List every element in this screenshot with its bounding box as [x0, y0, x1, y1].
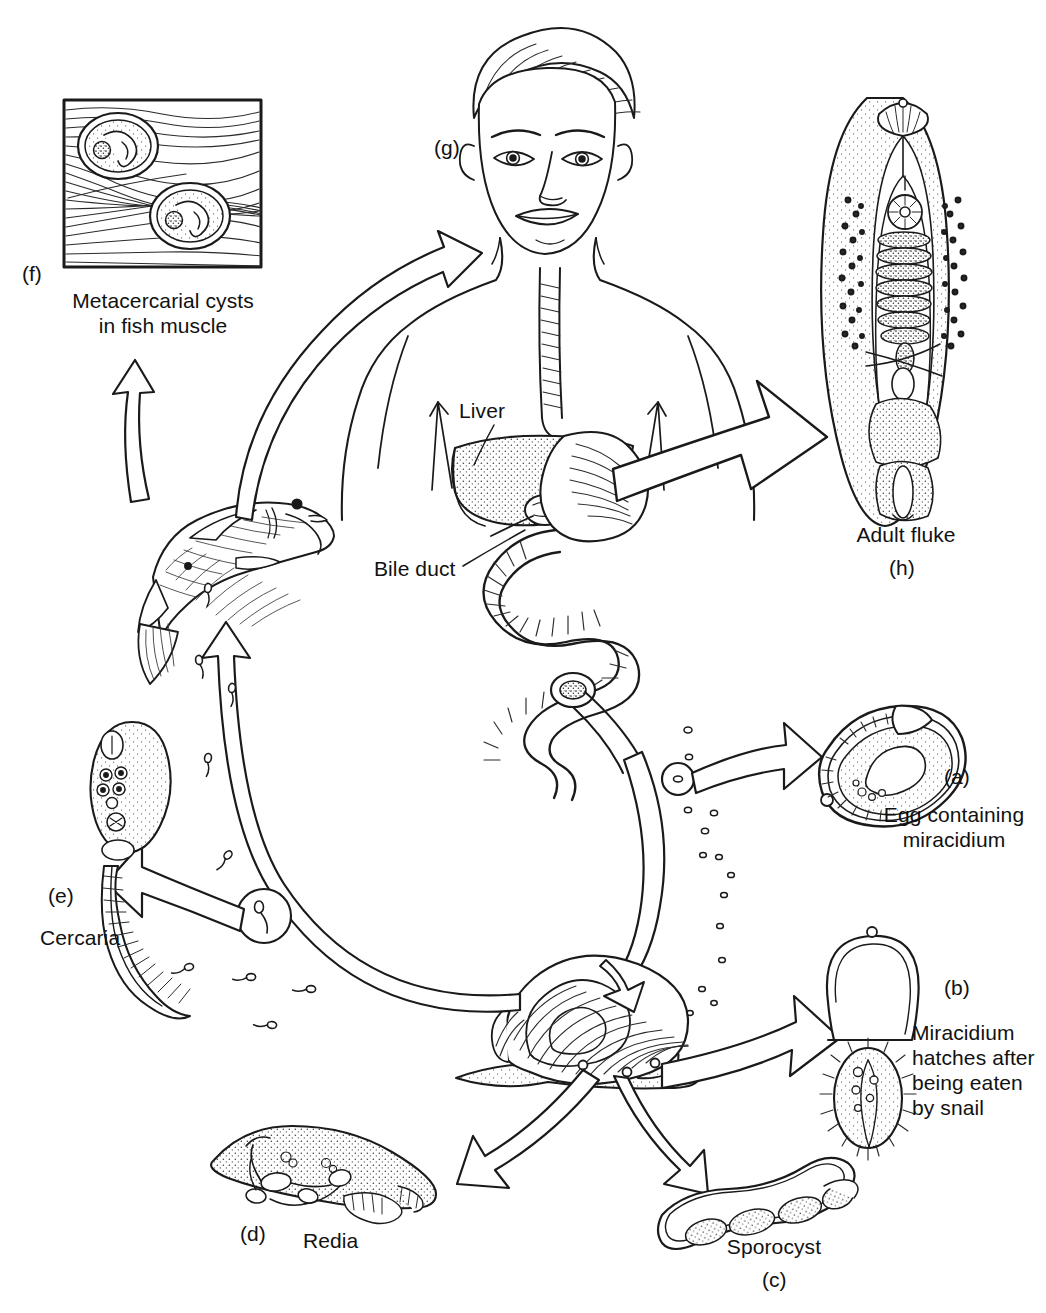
stage-caption-b-line1: Miracidium [912, 1020, 1015, 1045]
stage-caption-h: Adult fluke [813, 522, 999, 547]
arrow-fish-to-cysts [113, 360, 154, 502]
life-cycle-figure: (f) Metacercarial cysts in fish muscle (… [0, 0, 1046, 1313]
arrow-fish-to-human [236, 231, 482, 520]
anatomy-label-liver: Liver [459, 398, 505, 423]
diagram-artwork [0, 0, 1046, 1313]
stage-caption-b-line3: being eaten [912, 1070, 1023, 1095]
stage-tag-c: (c) [762, 1268, 787, 1292]
stage-caption-c: Sporocyst [684, 1234, 864, 1259]
stage-caption-a-line2: miracidium [862, 827, 1046, 852]
adult-fluke [821, 98, 966, 526]
anatomy-label-bile-duct: Bile duct [374, 556, 455, 581]
arrow-snail-to-sporocyst [614, 1076, 708, 1194]
stage-caption-e: Cercaria [40, 925, 120, 950]
arrow-liver-to-adult-fluke [613, 381, 827, 501]
stage-caption-b-line2: hatches after [912, 1045, 1035, 1070]
human-host [342, 28, 754, 800]
stage-tag-h: (h) [889, 556, 915, 580]
miracidium-hatching [820, 927, 919, 1160]
redia [211, 1126, 436, 1224]
arrow-snail-to-fish [202, 622, 520, 1012]
stage-caption-f-line1: Metacercarial cysts [38, 288, 288, 313]
stage-tag-d: (d) [240, 1222, 266, 1246]
arrow-snail-to-redia [457, 1070, 599, 1188]
stage-tag-a: (a) [944, 765, 970, 789]
stage-tag-g: (g) [434, 136, 460, 160]
stage-caption-b-line4: by snail [912, 1095, 984, 1120]
stage-caption-a-line1: Egg containing [862, 802, 1046, 827]
stage-tag-f: (f) [22, 262, 42, 286]
stage-tag-b: (b) [944, 976, 970, 1000]
metacercarial-cyst-panel [64, 100, 261, 267]
stage-caption-d: Redia [303, 1228, 358, 1253]
stage-tag-e: (e) [48, 884, 74, 908]
stage-caption-f-line2: in fish muscle [38, 313, 288, 338]
arrow-snail-to-miracidium [662, 996, 840, 1088]
